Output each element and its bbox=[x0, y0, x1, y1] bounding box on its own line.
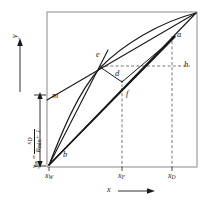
y-expression-denominator: Rmin+ 1 bbox=[35, 129, 43, 154]
y-axis-expression: ym = xD Rmin+ 1 bbox=[26, 129, 43, 168]
y-expression-equals: = bbox=[30, 155, 39, 160]
point-label-b: b bbox=[63, 150, 67, 159]
operating-line-m-to-corner bbox=[47, 13, 196, 100]
xtick-label-xD: xD bbox=[168, 172, 176, 181]
y-extent-arrow-top bbox=[37, 92, 42, 99]
point-label-m: m bbox=[52, 91, 58, 100]
point-label-h: h bbox=[184, 60, 188, 69]
y-expression-numerator: xD bbox=[26, 136, 34, 145]
y-axis-arrowhead bbox=[17, 38, 23, 46]
x-axis-arrowhead bbox=[147, 188, 155, 193]
point-label-e: e bbox=[96, 50, 100, 59]
xtick-label-xF: xF bbox=[118, 172, 125, 181]
xtick-label-xW-sub: W bbox=[49, 174, 54, 180]
xtick-label-xD-sub: D bbox=[172, 174, 176, 180]
y-expression-lhs: ym bbox=[30, 161, 39, 168]
xtick-label-xW: xW bbox=[45, 172, 53, 181]
y-expression-fraction: xD Rmin+ 1 bbox=[26, 129, 43, 154]
point-label-d: d bbox=[115, 69, 119, 78]
ray-b-steep bbox=[49, 50, 108, 165]
point-label-a: a bbox=[177, 30, 181, 39]
y-axis-label: y bbox=[10, 34, 19, 38]
x-axis-label: x bbox=[107, 186, 111, 194]
point-label-f: f bbox=[126, 89, 128, 98]
xtick-label-xF-sub: F bbox=[122, 174, 125, 180]
